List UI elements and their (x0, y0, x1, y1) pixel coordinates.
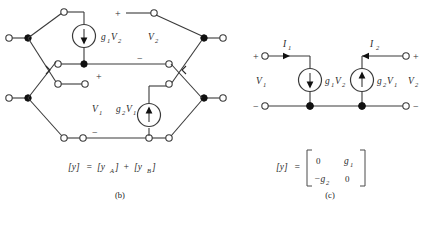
sign-v2-minus: − (137, 53, 143, 64)
terminal-right-top[interactable] (220, 35, 226, 41)
junction-source1-bottom (81, 61, 87, 67)
matrix-equation-lhs: [y] (276, 162, 288, 172)
label-current1: I (282, 39, 287, 49)
label-source2-var-sub: 1 (133, 109, 136, 116)
label-c-source1-sub: 1 (331, 81, 334, 88)
terminal-c-right-top[interactable] (403, 53, 409, 59)
label-current2-sub: 2 (376, 44, 380, 51)
equation-term-a-close: ] (114, 162, 119, 172)
equation-plus: + (123, 162, 129, 172)
equation-lhs: [y] (68, 162, 80, 172)
terminal-c-right-bottom[interactable] (403, 103, 409, 109)
matrix-cell-1-0: −g (314, 174, 325, 184)
label-source2-var: V (126, 104, 133, 114)
label-source2-g: g (116, 104, 121, 114)
equation-panel-c: [y] = 0 g 1 −g 2 0 (276, 150, 365, 186)
terminal-left-bottom[interactable] (6, 95, 12, 101)
equation-term-b-sub: B (147, 167, 151, 174)
terminal-mid-left-lower[interactable] (55, 81, 61, 87)
terminal-a-top-left[interactable] (61, 9, 67, 15)
matrix-cell-0-1-sub: 1 (350, 161, 353, 168)
sign-v1-minus: − (92, 127, 98, 138)
label-c-source1-var-sub: 2 (342, 81, 346, 88)
matrix-cell-0-0: 0 (316, 156, 321, 166)
label-c-v1: V (256, 76, 263, 86)
label-c-source2-var: V (387, 76, 394, 86)
label-source1-var: V (111, 32, 118, 42)
matrix-cell-1-0-sub: 2 (326, 179, 330, 186)
terminal-c-left-top[interactable] (262, 53, 268, 59)
terminal-v1-minus[interactable] (80, 135, 86, 141)
label-c-v1-sub: 1 (263, 81, 266, 88)
label-source1-sub: 1 (107, 37, 110, 44)
label-c-source1-g: g (325, 76, 330, 86)
sign-v2-plus: + (115, 8, 121, 19)
label-c-source1-var: V (335, 76, 342, 86)
label-c-v2-sub: 2 (415, 81, 419, 88)
label-current1-sub: 1 (288, 44, 291, 51)
equation-term-a: [y (97, 162, 106, 172)
matrix-equation-equals: = (294, 162, 300, 172)
sign-c-left-plus: + (253, 51, 259, 62)
junction-c-right (359, 103, 366, 110)
equation-term-b: [y (134, 162, 143, 172)
matrix-cell-0-1: g (344, 156, 349, 166)
terminal-b-bottom-left[interactable] (61, 135, 67, 141)
label-source1-var-sub: 2 (118, 37, 122, 44)
label-c-source2-var-sub: 1 (394, 81, 397, 88)
sign-c-right-plus: + (413, 51, 419, 62)
panel-c-circuit: + − + − I 1 I 2 V 1 V 2 g 1 V 2 g 2 V 1 … (232, 0, 439, 200)
arrow-right-icon (283, 53, 290, 59)
sign-v1-plus: + (96, 71, 102, 82)
label-v1-sub: 1 (99, 109, 102, 116)
terminal-v1-plus[interactable] (82, 81, 88, 87)
figure-container: g 1 V 2 V 2 + − + − V 1 g 2 V 1 [y] = [y… (0, 0, 439, 225)
equation-panel-b: [y] = [y A ] + [y B ] (68, 162, 156, 174)
caption-panel-c: (c) (305, 190, 355, 200)
terminal-right-bottom[interactable] (220, 95, 226, 101)
matrix-cell-1-1: 0 (345, 174, 350, 184)
equation-term-a-sub: A (109, 167, 114, 174)
equation-term-b-close: ] (151, 162, 156, 172)
junction-c-left (307, 103, 314, 110)
label-v2-sub: 2 (155, 37, 159, 44)
label-v1: V (92, 104, 99, 114)
label-source1-g: g (101, 32, 106, 42)
terminal-mid-right-lower[interactable] (166, 81, 172, 87)
label-current2: I (369, 39, 374, 49)
label-c-v2: V (408, 76, 415, 86)
label-c-source2-g: g (377, 76, 382, 86)
sign-c-left-minus: − (253, 101, 259, 112)
terminal-c-left-bottom[interactable] (262, 103, 268, 109)
terminal-mid-left-upper[interactable] (55, 61, 61, 67)
terminal-left-top[interactable] (6, 35, 12, 41)
equation-equals: = (86, 162, 92, 172)
label-v2: V (148, 32, 155, 42)
caption-panel-b: (b) (95, 190, 145, 200)
panel-b-circuit: g 1 V 2 V 2 + − + − V 1 g 2 V 1 [y] = [y… (0, 0, 232, 200)
sign-c-right-minus: − (413, 101, 419, 112)
arrow-left-icon (362, 53, 369, 59)
